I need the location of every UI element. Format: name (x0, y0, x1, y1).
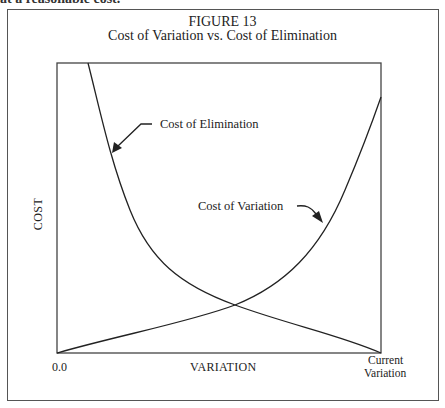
y-axis-label: COST (31, 198, 46, 231)
cost-of-variation-label: Cost of Variation (198, 199, 283, 214)
x-tick-current-line2: Variation (364, 367, 406, 379)
cost-of-elimination-label: Cost of Elimination (160, 117, 259, 132)
elimination-arrow (112, 124, 152, 153)
x-tick-zero: 0.0 (52, 360, 67, 375)
x-tick-current-line1: Current (368, 354, 403, 366)
variation-arrow (297, 206, 323, 223)
x-axis-label: VARIATION (190, 360, 256, 375)
